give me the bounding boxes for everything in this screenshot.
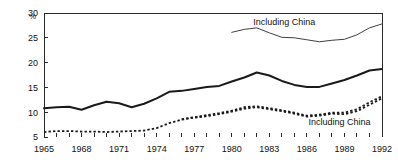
x-axis-tick-labels: 1965196819711974197719801983198619891992 xyxy=(34,144,392,154)
annotation-lower: Including China xyxy=(308,117,370,127)
x-tick-label-1977: 1977 xyxy=(184,144,204,154)
annotation-upper: Including China xyxy=(253,17,315,27)
x-tick-label-1971: 1971 xyxy=(109,144,129,154)
x-tick-label-1986: 1986 xyxy=(297,144,317,154)
line-chart: 51015202530 1965196819711974197719801983… xyxy=(0,0,398,167)
y-axis-ticks xyxy=(44,13,48,137)
y-tick-label-20: 20 xyxy=(28,58,38,68)
x-tick-label-1992: 1992 xyxy=(372,144,392,154)
y-tick-label-15: 15 xyxy=(28,83,38,93)
x-tick-label-1974: 1974 xyxy=(147,144,167,154)
x-axis-ticks xyxy=(44,133,382,138)
chart-series-layer xyxy=(44,24,382,132)
y-tick-label-25: 25 xyxy=(28,33,38,43)
chart-container: 51015202530 1965196819711974197719801983… xyxy=(0,0,398,167)
x-tick-label-1968: 1968 xyxy=(72,144,92,154)
y-axis-tick-labels: 51015202530 xyxy=(28,8,38,142)
series-line-2 xyxy=(182,96,382,119)
y-tick-label-10: 10 xyxy=(28,108,38,118)
x-tick-label-1983: 1983 xyxy=(259,144,279,154)
x-tick-label-1965: 1965 xyxy=(34,144,54,154)
x-tick-label-1989: 1989 xyxy=(334,144,354,154)
series-line-1 xyxy=(44,69,382,110)
x-tick-label-1980: 1980 xyxy=(222,144,242,154)
y-tick-label-5: 5 xyxy=(33,132,38,142)
y-axis-unit-label: % xyxy=(29,12,36,21)
